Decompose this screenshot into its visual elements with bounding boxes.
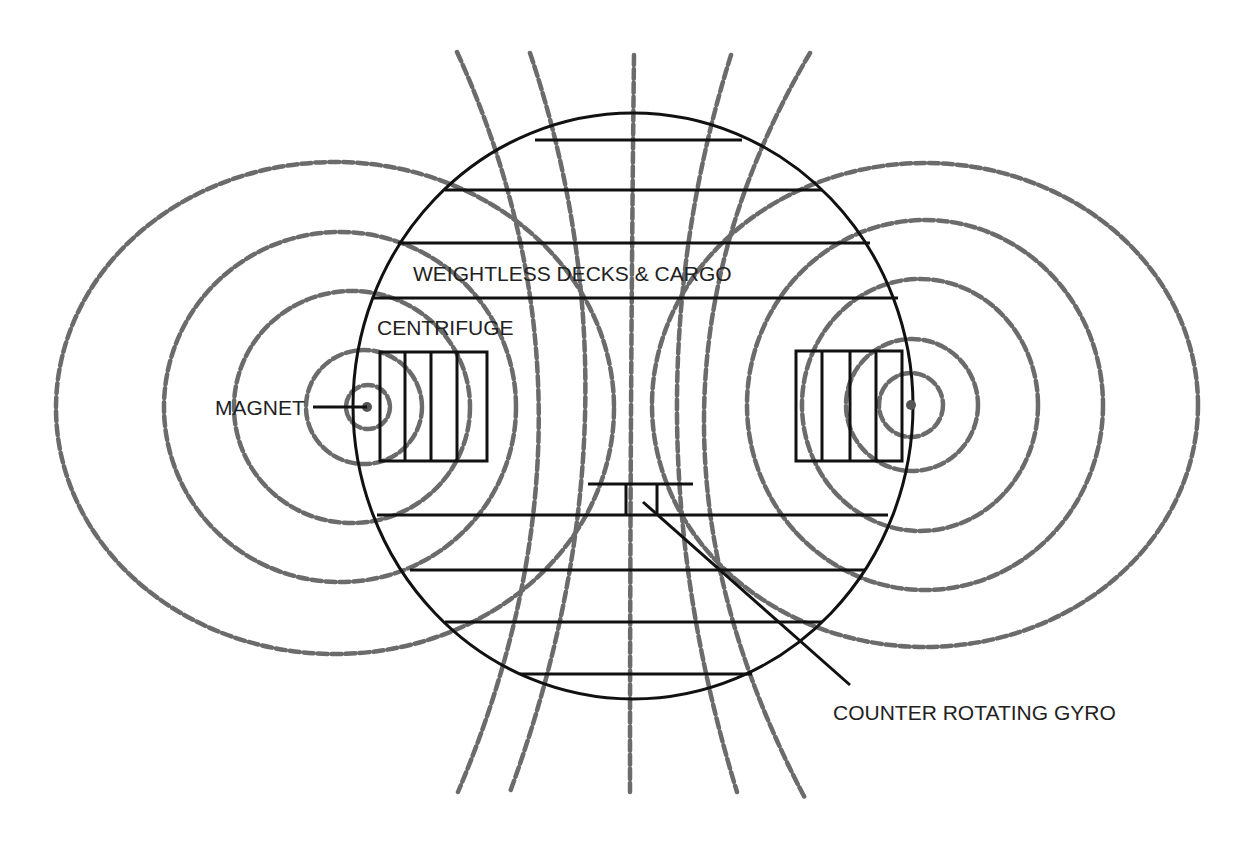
gyro-label: COUNTER ROTATING GYRO	[833, 701, 1116, 724]
magnet-label: MAGNET	[215, 396, 305, 419]
right-magnet-icon	[906, 400, 916, 410]
right-centrifuge	[796, 351, 902, 461]
right-magnet-field-rings	[652, 163, 1198, 647]
decks	[372, 140, 898, 674]
decks-label: WEIGHTLESS DECKS & CARGO	[413, 262, 732, 285]
spacecraft-diagram: WEIGHTLESS DECKS & CARGO CENTRIFUGE MAGN…	[0, 0, 1243, 848]
vertical-field-lines	[457, 52, 810, 800]
centrifuge-label: CENTRIFUGE	[377, 316, 514, 339]
